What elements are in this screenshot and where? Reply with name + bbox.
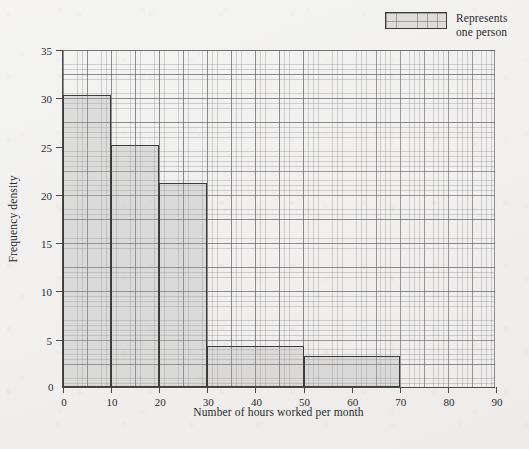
histogram-chart: Represents one person 5101520253035 0102… — [0, 0, 529, 449]
x-axis-tick: 50 — [304, 387, 305, 393]
histogram-bar — [111, 145, 159, 387]
plot-frame-right — [494, 50, 495, 387]
y-axis-tick-label: 20 — [41, 190, 52, 202]
y-axis-tick: 5 — [56, 340, 63, 341]
legend: Represents one person — [385, 12, 507, 39]
x-axis-title: Number of hours worked per month — [62, 406, 495, 418]
y-axis-tick-label: 5 — [47, 335, 53, 347]
x-axis-tick: 80 — [448, 387, 449, 393]
x-axis-tick: 0 — [63, 387, 64, 393]
legend-grid-square-swatch-icon — [385, 12, 447, 29]
x-axis-tick: 10 — [111, 387, 112, 393]
histogram-bar — [63, 95, 111, 387]
histogram-bar — [304, 356, 400, 387]
y-axis-tick-label: 30 — [41, 93, 52, 105]
y-axis-tick-label: 35 — [41, 45, 52, 57]
y-axis-zero-label: 0 — [48, 381, 54, 393]
y-axis-tick: 25 — [56, 147, 63, 148]
y-axis-tick: 15 — [56, 243, 63, 244]
y-axis-tick: 10 — [56, 291, 63, 292]
x-axis-tick: 20 — [159, 387, 160, 393]
x-axis-tick: 70 — [400, 387, 401, 393]
y-axis-tick-label: 10 — [41, 286, 52, 298]
legend-label: Represents one person — [456, 12, 507, 39]
y-axis-tick-label: 15 — [41, 238, 52, 250]
y-axis-tick: 30 — [56, 98, 63, 99]
plot-frame-top — [63, 50, 495, 51]
y-axis-tick-label: 25 — [41, 142, 52, 154]
y-axis-tick: 35 — [56, 50, 63, 51]
histogram-bar — [207, 346, 303, 387]
y-axis-tick: 20 — [56, 195, 63, 196]
x-axis-tick: 90 — [496, 387, 497, 393]
x-axis-tick: 40 — [255, 387, 256, 393]
x-axis-tick: 30 — [207, 387, 208, 393]
x-axis-tick: 60 — [352, 387, 353, 393]
plot-area: 5101520253035 0102030405060708090 — [62, 50, 495, 388]
y-axis-title: Frequency density — [7, 175, 19, 262]
histogram-bar — [159, 183, 207, 387]
